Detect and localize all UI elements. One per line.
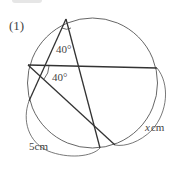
chord-top-to-bottom xyxy=(66,19,100,148)
angle-mark-top xyxy=(62,28,71,29)
angle-label-left: 40° xyxy=(52,71,67,83)
circle-geometry-diagram: (1) 40° 40° 5cm xcm xyxy=(0,0,180,170)
arc-label-5cm: 5cm xyxy=(29,140,48,152)
chord-left-to-bottom-right xyxy=(28,65,115,145)
chord-top-to-lower-left xyxy=(29,19,66,101)
arc-xcm xyxy=(115,68,166,145)
arc-label-cm-unit: cm xyxy=(151,121,165,133)
angle-mark-left xyxy=(44,66,49,79)
angle-label-top: 40° xyxy=(56,43,71,55)
arc-label-x-variable: x xyxy=(144,121,150,133)
problem-number: (1) xyxy=(9,18,24,33)
chord-horizontal xyxy=(28,65,157,68)
arc-label-xcm: xcm xyxy=(144,121,165,133)
